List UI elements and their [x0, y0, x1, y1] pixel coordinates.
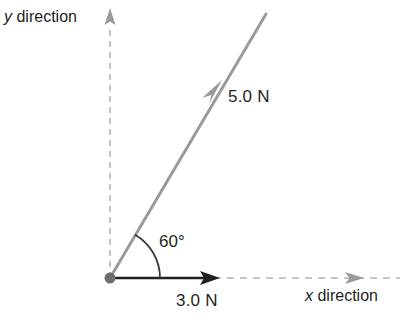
x-axis-label: x direction	[305, 288, 378, 304]
origin-dot	[105, 273, 116, 284]
angle-arc	[135, 235, 160, 278]
force-vector-diagram: y direction x direction 5.0 N 3.0 N 60°	[0, 0, 408, 327]
y-axis-label-text: direction	[12, 8, 77, 25]
y-axis-arrow-icon	[105, 8, 116, 25]
resultant-force-label: 5.0 N	[228, 88, 270, 105]
y-axis-label: y direction	[4, 9, 77, 25]
y-axis-label-symbol: y	[4, 8, 12, 25]
angle-label: 60°	[159, 233, 185, 250]
x-axis-label-text: direction	[313, 287, 378, 304]
horizontal-force-label: 3.0 N	[176, 292, 218, 309]
diagram-canvas	[0, 0, 408, 327]
resultant-force-vector-shaft	[110, 14, 266, 278]
x-axis-label-symbol: x	[305, 287, 313, 304]
